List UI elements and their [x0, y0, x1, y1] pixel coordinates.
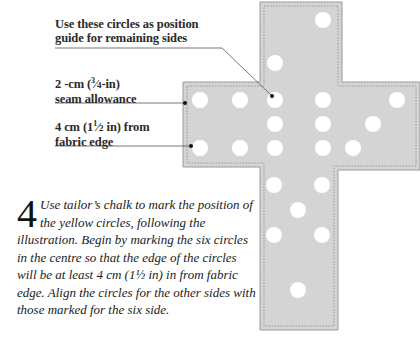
label-seam-allowance-line1: 2 -cm (3⁄4-in): [55, 74, 137, 92]
position-circle: [267, 140, 283, 156]
step-number: 4: [17, 199, 37, 229]
label-seam-allowance: 2 -cm (3⁄4-in) seam allowance: [55, 74, 137, 106]
position-circle: [314, 227, 330, 243]
position-circle: [314, 177, 330, 193]
position-circle: [266, 227, 282, 243]
position-circle: [345, 140, 361, 156]
label-seam-allowance-line2: seam allowance: [55, 92, 137, 106]
position-circle: [267, 55, 283, 71]
label-position-guide-line2: guide for remaining sides: [55, 31, 198, 45]
dot-seam-allowance: [183, 101, 187, 105]
position-circle: [266, 177, 282, 193]
position-circle: [365, 116, 381, 132]
position-circle: [290, 202, 306, 218]
position-circle: [315, 140, 331, 156]
position-circle: [232, 92, 248, 108]
step-text: Use tailor’s chalk to mark the position …: [17, 197, 256, 317]
position-circle: [192, 140, 208, 156]
position-circle: [267, 92, 283, 108]
position-circle: [192, 92, 208, 108]
position-circle: [315, 116, 331, 132]
label-fabric-edge-line2: fabric edge: [55, 135, 150, 149]
step-instruction: 4 Use tailor’s chalk to mark the positio…: [17, 196, 257, 319]
position-circle: [315, 12, 331, 28]
label-fabric-edge-line1: 4 cm (11⁄2 in) from: [55, 117, 150, 135]
dot-position-guide: [270, 94, 274, 98]
label-fabric-edge: 4 cm (11⁄2 in) from fabric edge: [55, 117, 150, 149]
label-position-guide: Use these circles as position guide for …: [55, 17, 198, 45]
position-circle: [389, 92, 405, 108]
label-position-guide-line1: Use these circles as position: [55, 17, 198, 31]
position-circle: [290, 282, 306, 298]
position-circle: [315, 92, 331, 108]
dot-fabric-edge: [189, 144, 193, 148]
position-circle: [232, 140, 248, 156]
position-circle: [267, 116, 283, 132]
